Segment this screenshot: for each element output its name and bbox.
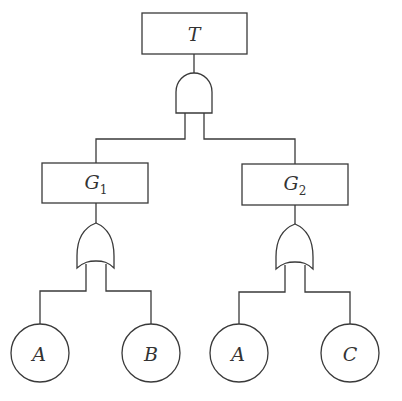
connector-and-g1 <box>96 113 185 163</box>
basic-event-c-label: C <box>343 343 358 365</box>
and-gate-icon <box>176 73 212 113</box>
g1-label-text: G <box>85 171 100 193</box>
fault-tree-graphics <box>0 0 402 401</box>
connector-and-g2 <box>204 113 295 164</box>
connector-g1-a <box>40 264 86 324</box>
g2-event-label: G2 <box>284 172 307 198</box>
basic-event-b-label: B <box>144 343 158 365</box>
basic-event-a2-label: A <box>231 343 245 365</box>
g1-label-subscript: 1 <box>100 183 108 197</box>
g2-label-subscript: 2 <box>299 184 307 198</box>
basic-event-a1-label: A <box>32 343 46 365</box>
or-gate-g2-icon <box>276 224 313 269</box>
g1-event-label: G1 <box>85 171 108 197</box>
connector-g2-c <box>305 265 350 324</box>
or-gate-g1-icon <box>77 223 114 268</box>
fault-tree-diagram: T G1 G2 A B A C <box>0 0 402 401</box>
connector-g2-a <box>239 265 285 324</box>
connector-g1-b <box>106 264 151 324</box>
g2-label-text: G <box>284 172 299 194</box>
top-event-label: T <box>188 23 201 45</box>
